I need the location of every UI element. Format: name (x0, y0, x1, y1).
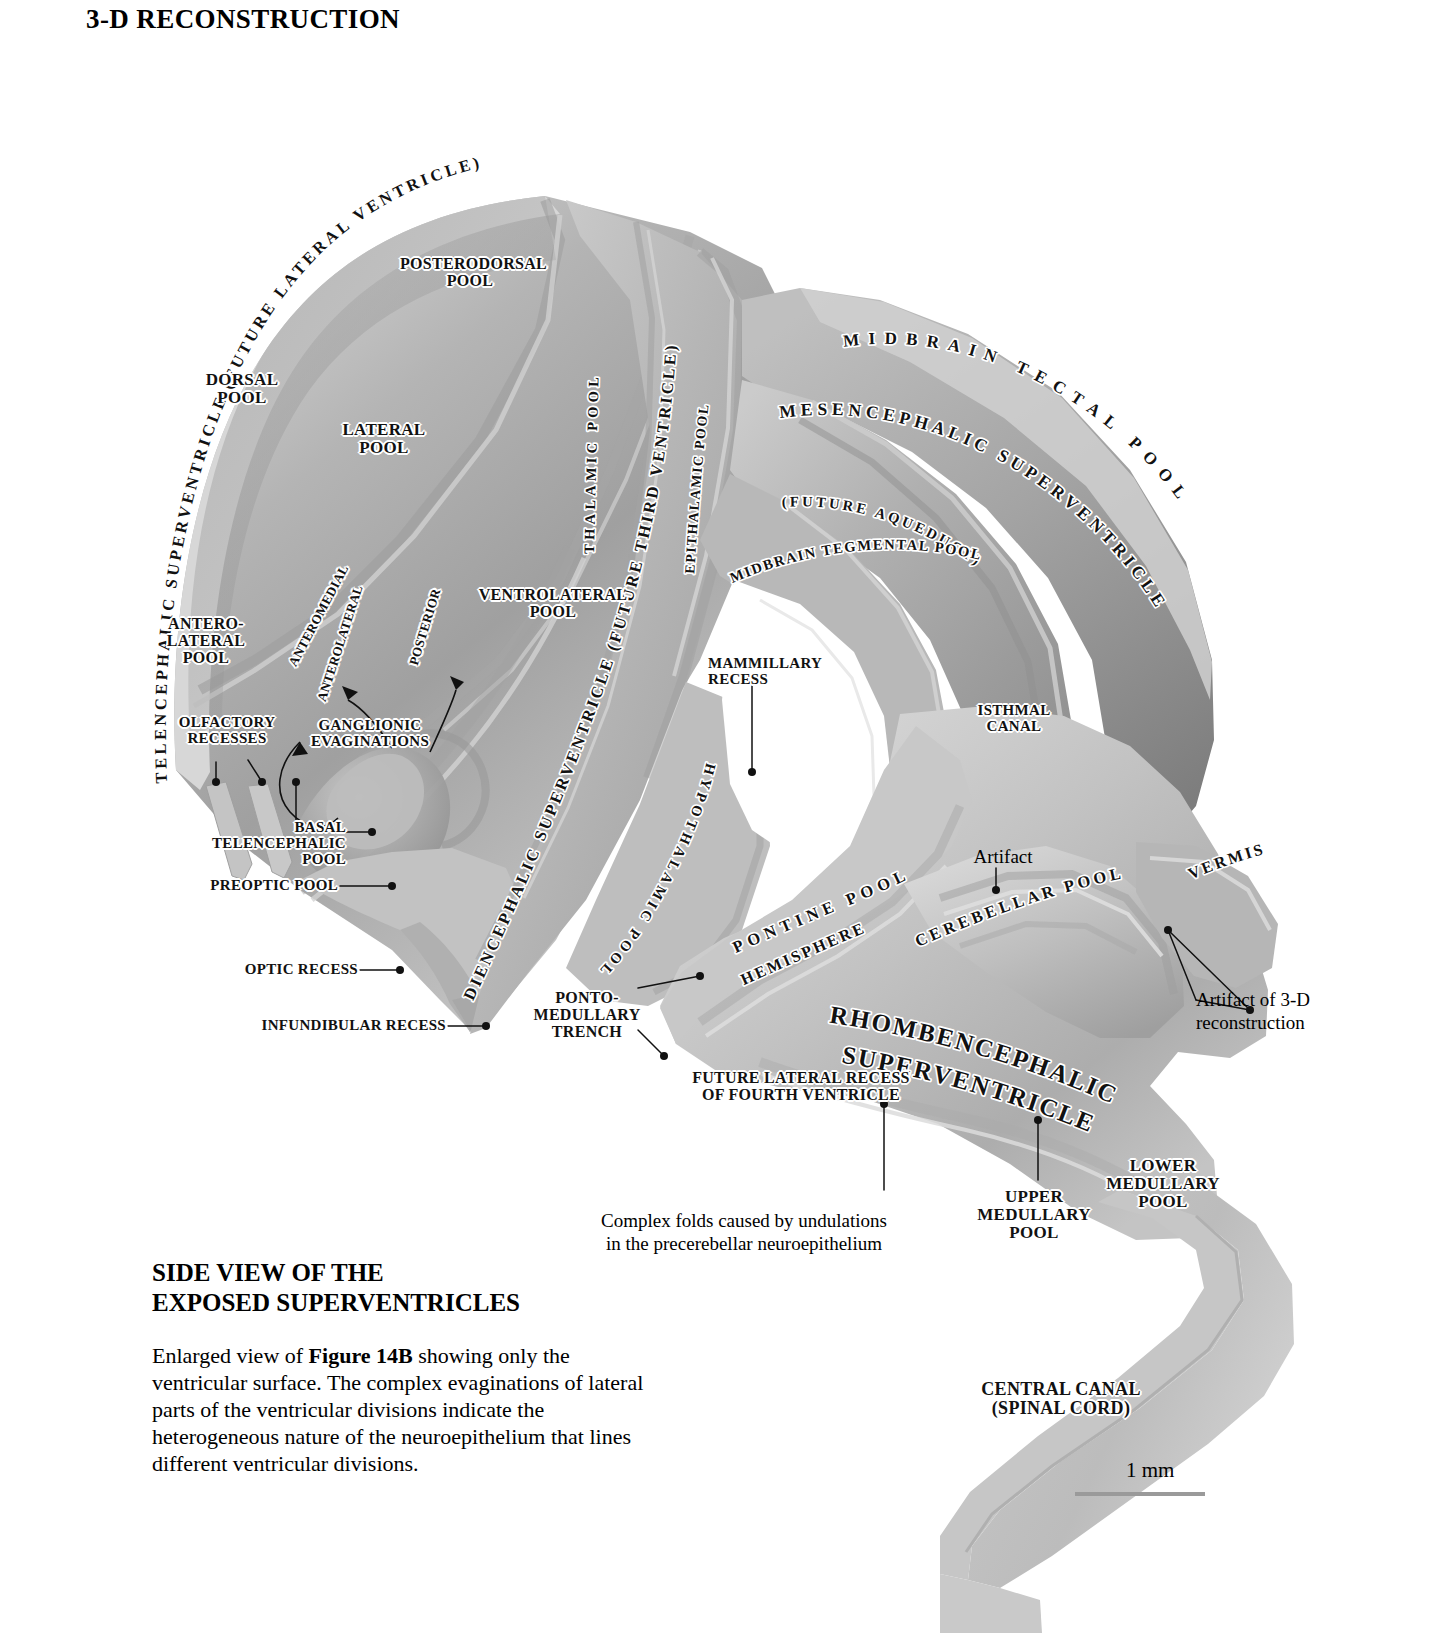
label-posterodorsal-pool: POSTERODORSAL POOL (400, 256, 540, 290)
annotation-artifact-3d-reconstruction: Artifact of 3-D reconstruction (1196, 988, 1346, 1034)
label-ponto-medullary-trench: PONTO- MEDULLARY TRENCH (532, 990, 642, 1040)
label-cerebellar-pool: CEREBELLAR POOL (912, 863, 1126, 951)
label-ventrolateral-pool: VENTROLATERAL POOL (478, 587, 628, 621)
label-isthmal-canal: ISTHMAL CANAL (964, 703, 1064, 735)
caption-prefix: Enlarged view of (152, 1343, 309, 1368)
label-thalamic-pool: THALAMIC POOL (581, 373, 602, 554)
label-mammillary-recess: MAMMILLARY RECESS (708, 656, 838, 688)
label-future-lateral-recess: FUTURE LATERAL RECESS OF FOURTH VENTRICL… (690, 1070, 912, 1104)
label-central-canal: CENTRAL CANAL (SPINAL CORD) (966, 1380, 1156, 1418)
label-preoptic-pool: PREOPTIC POOL (186, 878, 338, 894)
figure-canvas: 3-D RECONSTRUCTION TELENCEPHALIC SUPERVE… (0, 0, 1440, 1633)
label-epithalamic-pool: EPITHALAMIC POOL (682, 402, 711, 574)
section-title: SIDE VIEW OF THE EXPOSED SUPERVENTRICLES (152, 1258, 520, 1318)
label-ganglionic-evaginations: GANGLIONIC EVAGINATIONS (300, 718, 440, 750)
label-lateral-pool: LATERAL POOL (330, 421, 438, 457)
label-anterolateral-pool: ANTERO- LATERAL POOL (158, 616, 254, 666)
scale-bar-label: 1 mm (1126, 1458, 1174, 1483)
label-midbrain-tegmental-pool: MIDBRAIN TEGMENTAL POOL (727, 536, 984, 585)
scale-bar (1075, 1492, 1205, 1496)
label-olfactory-recesses: OLFACTORY RECESSES (172, 715, 282, 747)
label-basal-telencephalic-pool: BASAL TELENCEPHALIC POOL (186, 820, 346, 867)
label-vermis: VERMIS (1186, 840, 1267, 882)
annotation-complex-folds: Complex folds caused by undulations in t… (584, 1209, 904, 1255)
label-hypothalamic-pool: HYPOTHALAMIC POOL (594, 762, 719, 982)
figure-caption: Enlarged view of Figure 14B showing only… (152, 1342, 652, 1477)
caption-figure-ref: Figure 14B (309, 1343, 413, 1368)
label-upper-medullary-pool: UPPER MEDULLARY POOL (974, 1188, 1094, 1242)
label-infundibular-recess: INFUNDIBULAR RECESS (216, 1018, 446, 1034)
label-lower-medullary-pool: LOWER MEDULLARY POOL (1098, 1157, 1228, 1211)
label-optic-recess: OPTIC RECESS (206, 962, 358, 978)
annotation-artifact: Artifact (958, 845, 1048, 868)
label-dorsal-pool: DORSAL POOL (192, 371, 292, 407)
